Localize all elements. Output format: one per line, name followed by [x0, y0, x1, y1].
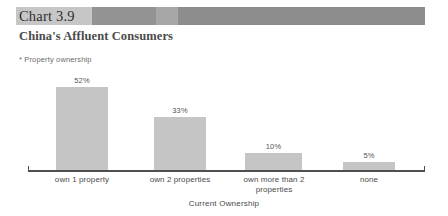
bar-own-more-than-2-properties[interactable]	[245, 153, 302, 170]
x-tick-label-none: none	[327, 175, 411, 185]
x-tick-label-own-1-property: own 1 property	[40, 175, 124, 185]
bar-own-1-property[interactable]	[56, 87, 108, 170]
x-axis-right-cap	[424, 166, 425, 171]
x-axis-line	[28, 170, 425, 172]
x-tick-label-line1: own 1 property	[55, 175, 109, 184]
chart-number-label: Chart 3.9	[19, 7, 75, 25]
x-tick-label-own-2-properties: own 2 properties	[138, 175, 222, 185]
bar-group-none: 5%	[343, 30, 395, 170]
bar-none[interactable]	[343, 162, 395, 170]
bar-group-own-2-properties: 33%	[154, 30, 206, 170]
bar-chart-plot-area: 52% own 1 property 33% own 2 properties …	[0, 0, 448, 216]
bar-value-own-1-property: 52%	[56, 76, 108, 85]
x-axis-left-cap	[28, 166, 29, 171]
bar-group-own-more-than-2-properties: 10%	[245, 30, 302, 170]
x-tick-label-own-more-than-2-properties: own more than 2 properties	[231, 175, 317, 194]
x-tick-label-line1: own 2 properties	[150, 175, 211, 184]
bar-group-own-1-property: 52%	[56, 30, 108, 170]
bar-own-2-properties[interactable]	[154, 117, 206, 170]
x-tick-label-line1: none	[360, 175, 378, 184]
x-tick-label-line2: properties	[256, 185, 293, 194]
x-tick-label-line1: own more than 2	[243, 175, 304, 184]
bar-value-own-2-properties: 33%	[154, 106, 206, 115]
bar-value-own-more-than-2-properties: 10%	[245, 142, 302, 151]
x-axis-title: Current Ownership	[0, 199, 448, 208]
bar-value-none: 5%	[343, 151, 395, 160]
